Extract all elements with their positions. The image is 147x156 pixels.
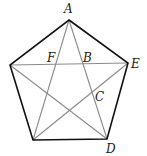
labels: A E D F B C [46, 2, 140, 156]
diagonal-L-D [10, 65, 107, 139]
label-C: C [95, 90, 104, 104]
label-E: E [130, 57, 140, 71]
label-D: D [105, 142, 116, 156]
pentagon-diagram: A E D F B C [0, 0, 147, 156]
diagonal-L-E [10, 63, 128, 65]
label-F: F [46, 51, 56, 65]
label-B: B [82, 51, 92, 65]
diagonal-E-M [33, 63, 128, 140]
diagonal-A-D [69, 20, 107, 139]
pentagon-outline [10, 20, 128, 140]
diagonal-A-M [33, 20, 69, 140]
label-A: A [63, 2, 73, 16]
